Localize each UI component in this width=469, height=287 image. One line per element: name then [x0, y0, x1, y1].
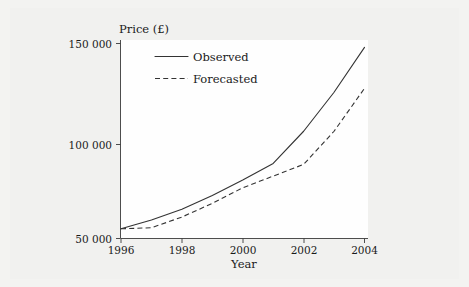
y-axis-title: Price (£)	[119, 22, 169, 36]
x-tick-label-2002: 2002	[291, 244, 318, 256]
legend-label-observed: Observed	[193, 50, 249, 64]
x-tick-label-1996: 1996	[108, 244, 135, 256]
plot-area-background	[121, 40, 368, 238]
y-tick-label-50000: 50 000	[75, 233, 112, 245]
y-tick-label-100000: 100 000	[69, 139, 112, 151]
price-vs-year-chart: 150 000 100 000 50 000 1996 1998 2000 20…	[0, 0, 469, 287]
x-axis-title: Year	[230, 257, 257, 271]
line-chart-figure: 150 000 100 000 50 000 1996 1998 2000 20…	[0, 0, 469, 287]
x-tick-label-2004: 2004	[351, 244, 378, 256]
y-tick-label-150000: 150 000	[69, 38, 112, 50]
x-tick-label-2000: 2000	[230, 244, 257, 256]
legend-label-forecasted: Forecasted	[193, 72, 258, 86]
x-tick-label-1998: 1998	[169, 244, 196, 256]
